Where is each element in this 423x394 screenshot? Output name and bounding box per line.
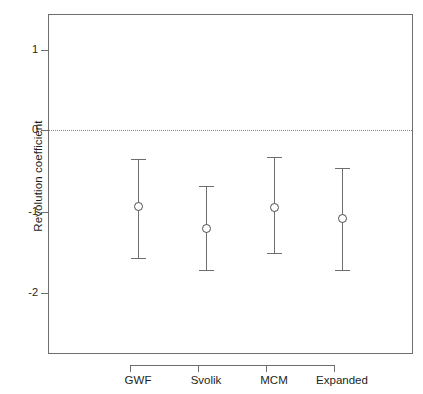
y-axis-title: Revolution coefficient [32, 76, 44, 276]
x-axis-bracket [130, 365, 334, 366]
error-bar-cap-bottom-mcm [267, 253, 282, 254]
y-tick-label-0: 0 [0, 124, 38, 135]
data-point-svolik [202, 224, 211, 233]
data-point-expanded [338, 214, 347, 223]
error-bar-cap-bottom-expanded [335, 270, 350, 271]
x-axis-bracket-right-end [334, 365, 335, 372]
data-point-gwf [134, 202, 143, 211]
y-tick-label-neg1: -1 [0, 206, 38, 217]
error-bar-cap-top-mcm [267, 157, 282, 158]
error-bar-cap-bottom-gwf [131, 258, 146, 259]
y-tick-label-1: 1 [0, 44, 38, 55]
error-bar-cap-top-expanded [335, 168, 350, 169]
error-bar-cap-bottom-svolik [199, 270, 214, 271]
error-bar-cap-top-gwf [131, 159, 146, 160]
plot-area [48, 14, 413, 354]
x-axis-bracket-tick-mcm [266, 365, 267, 372]
revolution-coefficient-chart: Revolution coefficient 1 0 -1 -2 GWF Svo… [0, 0, 423, 394]
x-axis-label-expanded: Expanded [297, 374, 387, 386]
zero-reference-line [49, 130, 412, 131]
x-axis-bracket-left-end [130, 365, 131, 372]
error-bar-cap-top-svolik [199, 186, 214, 187]
data-point-mcm [270, 203, 279, 212]
x-axis-bracket-tick-svolik [198, 365, 199, 372]
y-tick-label-neg2: -2 [0, 287, 38, 298]
